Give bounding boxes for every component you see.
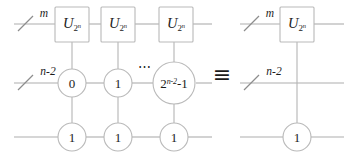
left-middle-wire-count-label: n-2: [40, 66, 56, 78]
left-middle-node-label-2: 1: [115, 77, 122, 90]
right-gate-label-1: U2n: [288, 16, 306, 33]
gate-symbol: U: [63, 15, 73, 31]
left-middle-node-label-3: 2n-2-1: [160, 77, 188, 90]
node-suffix: -1: [177, 76, 188, 91]
left-gate-label-3: U2n: [167, 16, 185, 33]
left-bottom-node-label-3: 1: [171, 131, 178, 144]
gate-symbol: U: [109, 15, 119, 31]
gate-subscript: 2n: [120, 22, 127, 32]
left-gate-label-2: U2n: [109, 16, 127, 33]
left-gate-label-1: U2n: [63, 16, 81, 33]
right-bottom-node-label-1: 1: [294, 131, 301, 144]
right-middle-wire-count-label: n-2: [266, 66, 282, 78]
node-exponent: n-2: [167, 77, 177, 86]
gate-subscript: 2n: [74, 22, 81, 32]
gate-symbol: U: [288, 15, 298, 31]
left-middle-node-label-1: 0: [69, 77, 76, 90]
left-bottom-node-label-2: 1: [115, 131, 122, 144]
left-bottom-node-label-1: 1: [69, 131, 76, 144]
gate-subscript-exponent: n: [124, 22, 127, 29]
gate-subscript-exponent: n: [303, 22, 306, 29]
equivalence-symbol: ≡: [213, 64, 231, 86]
right-top-wire-count-label: m: [266, 8, 274, 20]
gate-subscript: 2n: [299, 22, 306, 32]
circuit-identity-figure: m n-2 U2n U2n U2n 0 1 2n-2-1 ⋯ 1 1 1 ≡ m…: [0, 0, 352, 161]
gate-subscript: 2n: [178, 22, 185, 32]
gate-symbol: U: [167, 15, 177, 31]
left-top-wire-count-label: m: [40, 8, 48, 20]
ellipsis-label: ⋯: [138, 60, 152, 73]
gate-subscript-exponent: n: [182, 22, 185, 29]
gate-subscript-exponent: n: [78, 22, 81, 29]
